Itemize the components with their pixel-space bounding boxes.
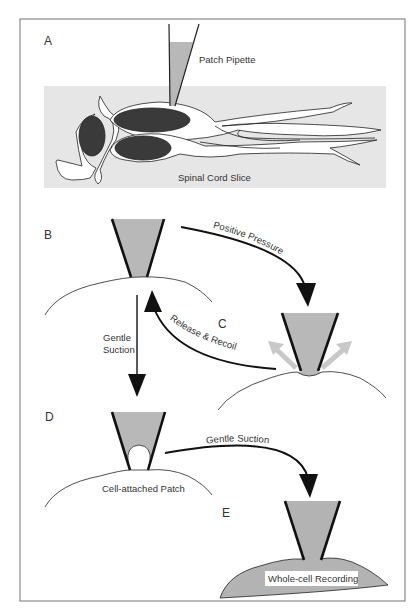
panel-b: B xyxy=(44,219,212,315)
cell-membrane-c xyxy=(218,372,386,410)
panel-e-label: E xyxy=(222,506,230,520)
patch-pipette-label: Patch Pipette xyxy=(199,54,256,65)
gentle-suction-curved-label: Gentle Suction xyxy=(205,432,270,445)
positive-pressure-label: Positive Pressure xyxy=(212,219,286,256)
panel-d-label: D xyxy=(45,410,54,424)
arrow-gentle-suction-vertical: Gentle Suction xyxy=(103,295,146,397)
arrow-gentle-suction-curved: Gentle Suction xyxy=(165,432,318,498)
patch-clamp-diagram: A Patch Pipette Spinal Cord Slice xyxy=(0,0,420,612)
panel-e: E Whole-cell Recording xyxy=(220,501,388,598)
spinal-cord-slice-label: Spinal Cord Slice xyxy=(178,172,251,183)
panel-b-label: B xyxy=(44,228,52,242)
cell-attached-patch-label: Cell-attached Patch xyxy=(102,483,185,494)
panel-d: D Cell-attached Patch xyxy=(45,410,212,507)
whole-cell-recording-label: Whole-cell Recording xyxy=(268,573,358,584)
gentle-suction-line2: Suction xyxy=(103,344,135,355)
arrow-release-recoil: Release & Recoil xyxy=(144,290,276,369)
gentle-suction-line1: Gentle xyxy=(103,332,131,343)
panel-a-label: A xyxy=(44,34,52,48)
arrow-positive-pressure: Positive Pressure xyxy=(181,219,316,307)
cell-membrane-b xyxy=(45,277,212,315)
release-recoil-label: Release & Recoil xyxy=(168,312,237,352)
panel-c-label: C xyxy=(218,317,227,331)
panel-a: A Patch Pipette Spinal Cord Slice xyxy=(44,24,386,188)
panel-c: C xyxy=(218,313,386,410)
